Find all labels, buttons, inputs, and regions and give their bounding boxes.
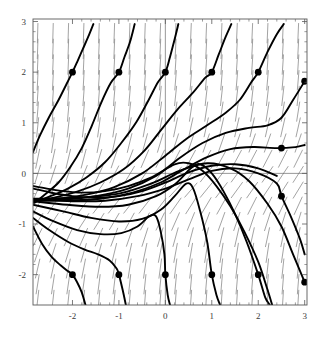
y-tick-label: 1 <box>22 118 27 128</box>
plot-canvas: -2-10123-2-10123 <box>0 0 331 341</box>
marked-point <box>255 69 262 76</box>
marked-point <box>278 193 285 200</box>
x-tick-label: 0 <box>163 311 168 321</box>
x-tick-label: 1 <box>210 311 215 321</box>
marked-point <box>255 271 262 278</box>
marked-point <box>208 69 215 76</box>
y-tick-label: 3 <box>22 17 27 27</box>
x-tick-label: 2 <box>256 311 261 321</box>
marked-point <box>208 271 215 278</box>
solution-curve <box>33 81 305 200</box>
slope-field-figure: -2-10123-2-10123 <box>0 0 331 341</box>
y-tick-label: 2 <box>22 67 27 77</box>
solution-curves-layer <box>33 24 305 305</box>
marked-point <box>69 69 76 76</box>
marked-point <box>278 145 285 152</box>
y-tick-label: -2 <box>19 270 27 280</box>
y-tick-label: 0 <box>22 169 27 179</box>
marked-point <box>69 271 76 278</box>
x-tick-label: -2 <box>69 311 77 321</box>
x-tick-label: 3 <box>302 311 307 321</box>
x-tick-label: -1 <box>115 311 123 321</box>
y-tick-label: -1 <box>19 219 27 229</box>
marked-point <box>116 271 123 278</box>
marked-point <box>162 271 169 278</box>
marked-point <box>162 69 169 76</box>
marked-point <box>116 69 123 76</box>
solution-curve <box>33 227 85 305</box>
